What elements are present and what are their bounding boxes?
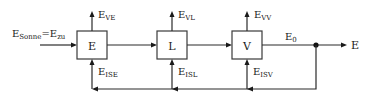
arrowhead-icon	[172, 87, 178, 92]
arrowhead-icon	[247, 87, 253, 92]
feedback-label-v: EISV	[253, 66, 274, 79]
block-l-label: L	[168, 40, 176, 53]
loss-label-l: EVL	[178, 9, 195, 22]
arrowhead-icon	[170, 11, 175, 17]
input-label: ESonne=Ezu	[12, 28, 66, 41]
output-label: E	[351, 39, 359, 52]
block-v-label: V	[242, 40, 252, 53]
arrowhead-icon	[90, 11, 95, 17]
e0-label: E0	[285, 31, 297, 44]
arrowhead-icon	[90, 59, 95, 65]
arrowhead-icon	[226, 43, 232, 48]
loss-label-v: EVV	[254, 9, 272, 22]
feedback-label-l: EISL	[178, 66, 198, 79]
arrowhead-icon	[245, 11, 250, 17]
arrowhead-icon	[92, 87, 98, 92]
block-e-label: E	[88, 40, 96, 53]
arrowhead-icon	[245, 59, 250, 65]
feedback-label-e: EISE	[98, 66, 118, 79]
arrowhead-icon	[341, 43, 347, 48]
arrowhead-icon	[151, 43, 157, 48]
energy-flow-diagram: ESonne=Ezu E L V E0 E EVE EVL EVV EISE E…	[0, 0, 368, 100]
loss-label-e: EVE	[98, 9, 115, 22]
arrowhead-icon	[71, 43, 77, 48]
feedback-bus	[96, 45, 316, 89]
arrowhead-icon	[170, 59, 175, 65]
